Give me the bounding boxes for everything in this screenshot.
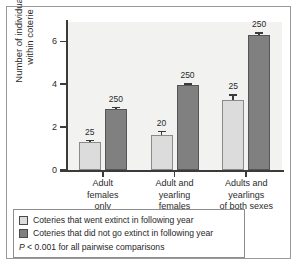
error-bar-cap <box>158 131 166 133</box>
y-axis-tick: 0 <box>60 169 67 170</box>
x-axis-category-line: females <box>64 190 142 202</box>
y-axis-tick: 6 <box>60 41 67 42</box>
x-axis-category-line: Adult and <box>136 178 214 190</box>
figure: 0246 Number of individuals within coteri… <box>0 0 297 265</box>
legend-label-not-extinct: Coteries that did not go extinct in foll… <box>33 228 213 239</box>
bar <box>105 109 127 170</box>
y-axis-tick-label: 6 <box>52 37 57 46</box>
error-bar-cap <box>229 94 237 96</box>
bar <box>222 100 244 170</box>
y-axis-tick-mark <box>60 126 67 128</box>
bar <box>248 35 270 170</box>
sample-size-label: 20 <box>147 119 177 128</box>
y-axis-tick-label: 4 <box>52 79 57 88</box>
legend-swatch-dark <box>19 229 28 238</box>
x-axis-category-label: Adult andyearlingfemales <box>136 178 214 213</box>
error-bar-cap <box>184 83 192 85</box>
pvalue-annotation-row: P < 0.001 for all pairwise comparisons <box>19 240 239 253</box>
legend-swatch-light <box>19 216 28 225</box>
x-axis-line <box>60 170 284 172</box>
sample-size-label: 250 <box>101 95 131 104</box>
y-axis-line <box>66 20 68 172</box>
sample-size-label: 25 <box>75 128 105 137</box>
y-axis-tick-label: 0 <box>52 165 57 174</box>
pvalue-annotation: P < 0.001 for all pairwise comparisons <box>19 242 164 252</box>
y-axis-tick-mark <box>60 169 67 171</box>
y-axis-label: Number of individuals within coterie <box>13 0 35 97</box>
sample-size-label: 250 <box>244 20 274 29</box>
legend-item-extinct: Coteries that went extinct in following … <box>19 214 239 227</box>
y-axis-tick-label: 2 <box>52 122 57 131</box>
bar <box>177 85 199 170</box>
sample-size-label: 25 <box>218 82 248 91</box>
error-bar-cap <box>112 107 120 109</box>
sample-size-label: 250 <box>173 71 203 80</box>
y-axis-tick: 2 <box>60 126 67 127</box>
y-axis-label-line1: Number of individuals <box>13 0 24 97</box>
x-axis-category-line: Adults and <box>207 178 285 190</box>
pvalue-rest: < 0.001 for all pairwise comparisons <box>25 242 165 252</box>
y-axis-label-line2: within coterie <box>24 0 35 97</box>
x-axis-category-line: Adult <box>64 178 142 190</box>
x-axis-category-line: yearling <box>136 190 214 202</box>
x-axis-category-label: Adults andyearlingsof both sexes <box>207 178 285 213</box>
x-axis-category-line: yearlings <box>207 190 285 202</box>
y-axis-tick-mark <box>60 83 67 85</box>
bar <box>151 135 173 170</box>
bar <box>79 142 101 170</box>
legend-item-not-extinct: Coteries that did not go extinct in foll… <box>19 227 239 240</box>
legend-label-extinct: Coteries that went extinct in following … <box>33 215 194 226</box>
error-bar-cap <box>86 140 94 142</box>
x-axis-category-label: Adultfemalesonly <box>64 178 142 213</box>
x-axis-tick <box>245 172 247 177</box>
error-bar-cap <box>255 32 263 34</box>
y-axis-tick: 4 <box>60 83 67 84</box>
x-axis-tick <box>102 172 104 177</box>
legend: Coteries that went extinct in following … <box>13 209 245 258</box>
x-axis-tick <box>174 172 176 177</box>
y-axis-tick-mark <box>60 41 67 43</box>
